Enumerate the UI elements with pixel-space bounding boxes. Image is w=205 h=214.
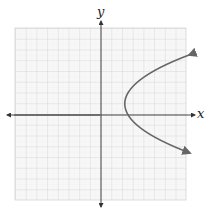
y-axis-label: y [97,4,104,19]
graph [0,0,205,214]
x-axis-label: x [197,106,204,121]
